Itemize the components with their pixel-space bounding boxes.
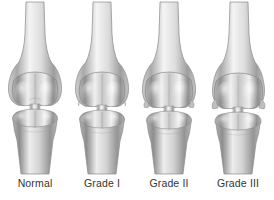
knee-illustration-grade-1 xyxy=(68,0,136,176)
figure-caption-grade-3: Grade III xyxy=(204,177,272,190)
knee-figure-grade-3: Grade III xyxy=(204,0,272,176)
knee-figure-grade-2: Grade II xyxy=(135,0,203,176)
knee-figure-normal: Normal xyxy=(1,0,69,176)
bone-group-grade-1 xyxy=(75,2,128,174)
figure-caption-grade-2: Grade II xyxy=(135,177,203,190)
bone-group-grade-2 xyxy=(142,2,195,174)
bone-group-normal xyxy=(8,2,61,174)
knee-grading-figure-row: Normal xyxy=(0,0,274,200)
figure-caption-normal: Normal xyxy=(1,177,69,190)
figure-caption-grade-1: Grade I xyxy=(68,177,136,190)
knee-illustration-grade-2 xyxy=(135,0,203,176)
knee-illustration-normal xyxy=(1,0,69,176)
bone-group-grade-3 xyxy=(212,2,265,174)
knee-figure-grade-1: Grade I xyxy=(68,0,136,176)
knee-illustration-grade-3 xyxy=(204,0,272,176)
